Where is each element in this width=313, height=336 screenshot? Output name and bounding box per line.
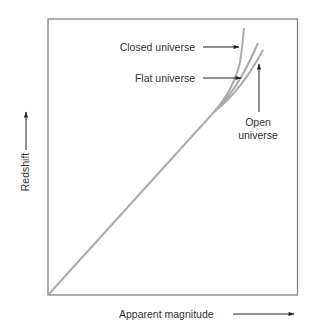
hubble-diagram: Closed universe Flat universe Open unive…: [0, 0, 313, 336]
label-closed-universe: Closed universe: [120, 41, 195, 53]
label-open-universe-line2: universe: [238, 129, 278, 141]
x-axis-label: Apparent magnitude: [119, 308, 214, 320]
curve-linear-segment: [49, 112, 215, 295]
label-flat-universe: Flat universe: [135, 72, 195, 84]
label-open-universe-line1: Open: [245, 116, 271, 128]
y-axis-label: Redshift: [19, 153, 31, 192]
